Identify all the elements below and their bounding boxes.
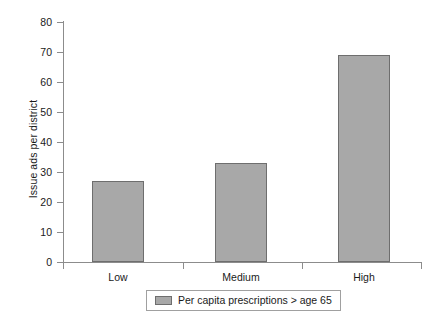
legend: Per capita prescriptions > age 65 xyxy=(146,290,341,311)
y-axis-tick xyxy=(57,232,63,233)
y-axis-tick xyxy=(57,112,63,113)
y-axis-tick-label: 10 xyxy=(30,226,52,238)
y-axis-tick-label: 80 xyxy=(30,16,52,28)
bar-high xyxy=(338,55,390,262)
x-axis-label-high: High xyxy=(353,271,375,283)
x-axis-tick xyxy=(421,263,422,269)
x-axis-label-medium: Medium xyxy=(222,271,259,283)
y-axis-tick xyxy=(57,142,63,143)
y-axis-tick-label: 30 xyxy=(30,166,52,178)
bar-chart: Issue ads per district 80 70 60 50 40 30… xyxy=(0,0,437,324)
y-axis-tick-label: 20 xyxy=(30,196,52,208)
bar-medium xyxy=(215,163,267,262)
y-axis-tick-label: 40 xyxy=(30,136,52,148)
legend-swatch-icon xyxy=(155,296,172,305)
y-axis-tick-label: 70 xyxy=(30,46,52,58)
x-axis-tick xyxy=(183,263,184,269)
y-axis-line xyxy=(63,21,64,263)
y-axis-tick xyxy=(57,202,63,203)
y-axis-tick xyxy=(57,22,63,23)
y-axis-tick xyxy=(57,172,63,173)
bar-low xyxy=(92,181,144,262)
legend-label: Per capita prescriptions > age 65 xyxy=(178,295,332,306)
x-axis-label-low: Low xyxy=(108,271,127,283)
y-axis-tick xyxy=(57,52,63,53)
x-axis-tick xyxy=(63,263,64,269)
y-axis-tick-label: 0 xyxy=(30,256,52,268)
y-axis-tick xyxy=(57,82,63,83)
y-axis-tick-label: 50 xyxy=(30,106,52,118)
x-axis-tick xyxy=(302,263,303,269)
y-axis-tick-label: 60 xyxy=(30,76,52,88)
x-axis-line xyxy=(63,262,422,263)
